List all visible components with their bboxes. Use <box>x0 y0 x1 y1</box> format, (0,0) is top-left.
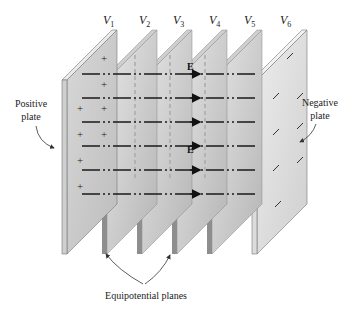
plus-sign: + <box>100 52 107 64</box>
positive-plate-pointer-arrow <box>36 126 54 148</box>
voltage-label-v5: V5 <box>244 13 255 29</box>
negative-plate-label-line1: Negative <box>302 97 339 108</box>
voltage-label-v2: V2 <box>139 13 150 29</box>
voltage-label-v3: V3 <box>173 13 184 29</box>
plus-sign: + <box>76 180 83 192</box>
equipotential-diagram: V1 V2 V3 V4 V5 V6 ++++++++ E E Positive … <box>0 0 360 314</box>
positive-plate-label-line1: Positive <box>15 98 48 109</box>
plus-sign: + <box>76 102 83 114</box>
negative-plate-label-line2: plate <box>310 110 330 121</box>
positive-plate-label-line2: plate <box>21 111 41 122</box>
field-label-middle: E <box>187 144 194 155</box>
plus-sign: + <box>100 128 107 140</box>
equipotential-callout: Equipotential planes <box>105 254 187 301</box>
plus-sign: + <box>100 102 107 114</box>
plus-sign: + <box>100 78 107 90</box>
plus-sign: + <box>76 154 83 166</box>
equipotential-pointer-right <box>145 255 170 284</box>
voltage-labels: V1 V2 V3 V4 V5 V6 <box>103 13 291 29</box>
plus-sign: + <box>76 128 83 140</box>
equipotential-planes <box>102 30 262 254</box>
voltage-label-v4: V4 <box>209 13 220 29</box>
equipotential-pointer-left <box>106 254 143 284</box>
positive-plate-callout: Positive plate <box>15 98 54 148</box>
equipotential-planes-label: Equipotential planes <box>105 290 187 301</box>
voltage-label-v6: V6 <box>280 13 291 29</box>
voltage-label-v1: V1 <box>103 13 114 29</box>
field-label-top: E <box>187 61 194 72</box>
